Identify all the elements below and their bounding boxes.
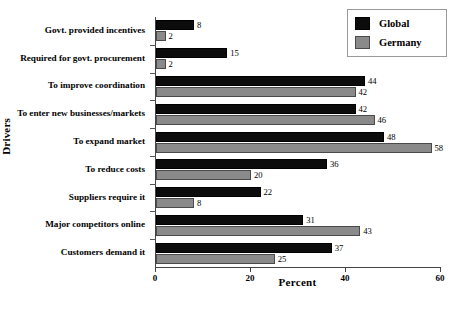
bar-global: [156, 48, 227, 58]
category-label: Required for govt. procurement: [5, 54, 145, 63]
bar-value-label: 37: [335, 244, 344, 253]
category-label: To reduce costs: [5, 165, 145, 174]
bar-value-label: 48: [387, 133, 396, 142]
bar-germany: [156, 115, 375, 125]
x-axis-title: Percent: [155, 276, 440, 288]
bar-value-label: 44: [368, 77, 377, 86]
bar-germany: [156, 87, 356, 97]
legend-item-label: Germany: [379, 37, 422, 48]
bar-value-label: 31: [306, 216, 315, 225]
bar-germany: [156, 143, 432, 153]
category-label: Customers demand it: [5, 248, 145, 257]
x-axis-tick: [440, 267, 441, 272]
category-separator-tick: [150, 239, 156, 240]
bar-global: [156, 215, 303, 225]
bar-germany: [156, 59, 166, 69]
legend-item: Germany: [355, 34, 440, 50]
category-separator-tick: [150, 100, 156, 101]
bar-global: [156, 132, 384, 142]
gray-swatch: [355, 36, 370, 49]
bar-global: [156, 76, 365, 86]
category-label: Govt. provided incentives: [5, 26, 145, 35]
category-separator-tick: [150, 45, 156, 46]
bar-global: [156, 104, 356, 114]
bar-germany: [156, 254, 275, 264]
category-label: To enter new businesses/markets: [5, 109, 145, 118]
bar-value-label: 8: [197, 199, 201, 208]
bar-value-label: 25: [278, 255, 287, 264]
category-label: To improve coordination: [5, 81, 145, 90]
bar-germany: [156, 170, 251, 180]
bar-value-label: 20: [254, 171, 263, 180]
bar-global: [156, 20, 194, 30]
category-separator-tick: [150, 128, 156, 129]
black-swatch: [355, 17, 370, 30]
category-separator-tick: [150, 73, 156, 74]
bar-global: [156, 159, 327, 169]
bar-value-label: 22: [264, 188, 273, 197]
bar-value-label: 2: [169, 60, 173, 69]
bar-value-label: 2: [169, 32, 173, 41]
legend-item-label: Global: [379, 18, 409, 29]
x-axis-tick: [345, 267, 346, 272]
bar-value-label: 15: [230, 49, 239, 58]
bar-value-label: 36: [330, 160, 339, 169]
bar-value-label: 42: [359, 105, 368, 114]
chart-legend: GlobalGermany: [347, 9, 447, 57]
bar-value-label: 42: [359, 88, 368, 97]
bar-value-label: 8: [197, 21, 201, 30]
legend-item: Global: [355, 15, 440, 31]
x-axis-tick: [250, 267, 251, 272]
bar-global: [156, 243, 332, 253]
bar-chart: Drivers Govt. provided incentivesRequire…: [0, 0, 459, 313]
category-separator-tick: [150, 211, 156, 212]
bar-germany: [156, 31, 166, 41]
category-label: To expand market: [5, 137, 145, 146]
category-separator-tick: [150, 184, 156, 185]
bar-value-label: 58: [435, 144, 444, 153]
x-axis-tick: [155, 267, 156, 272]
bar-germany: [156, 198, 194, 208]
category-label-column: Govt. provided incentivesRequired for go…: [14, 17, 150, 267]
bar-germany: [156, 226, 360, 236]
bar-value-label: 43: [363, 227, 372, 236]
category-separator-tick: [150, 156, 156, 157]
category-label: Major competitors online: [5, 220, 145, 229]
bar-global: [156, 187, 261, 197]
x-axis-line: [155, 267, 440, 268]
bar-value-label: 46: [378, 116, 387, 125]
category-label: Suppliers require it: [5, 193, 145, 202]
